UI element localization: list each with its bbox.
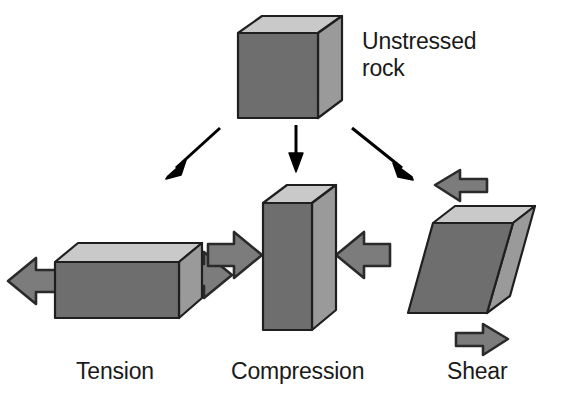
compression-block-front-face <box>263 203 312 330</box>
label-compression: Compression <box>231 358 364 385</box>
arrowhead <box>393 163 413 180</box>
unstressed-rock-cube <box>238 16 342 118</box>
stress-types-diagram: Unstressed rock Tension Compression Shea… <box>0 0 570 403</box>
label-unstressed-rock-line1: Unstressed <box>362 28 476 55</box>
tension-group <box>8 243 232 318</box>
label-shear: Shear <box>447 358 507 385</box>
connector-arrows <box>166 125 413 180</box>
shear-top-arrow <box>435 170 487 201</box>
compression-right-arrow <box>336 232 390 278</box>
shear-group <box>408 170 535 355</box>
compression-block-side-face <box>312 185 336 330</box>
cube-side-face <box>318 16 342 118</box>
shear-bottom-arrow <box>456 324 508 355</box>
tension-block-front-face <box>55 262 179 318</box>
label-unstressed-rock: Unstressed rock <box>362 28 476 82</box>
label-unstressed-rock-line2: rock <box>362 55 476 82</box>
tension-block-top-face <box>55 243 202 262</box>
connector-arrow-to-tension <box>166 128 220 179</box>
diagram-canvas <box>0 0 570 403</box>
label-tension: Tension <box>76 358 154 385</box>
cube-front-face <box>238 33 318 118</box>
connector-arrow-to-compression <box>289 125 303 172</box>
arrowhead <box>289 153 303 172</box>
arrowhead <box>166 160 186 179</box>
compression-group <box>208 185 390 330</box>
connector-arrow-to-shear <box>352 128 413 180</box>
